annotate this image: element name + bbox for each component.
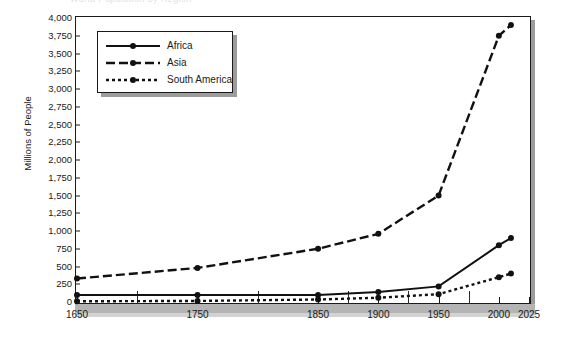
data-point-marker [74,276,80,282]
data-point-marker [195,298,201,304]
data-point-marker [508,235,514,241]
legend-swatch-icon [105,57,161,69]
data-point-marker [436,291,442,297]
chart-legend: AfricaAsiaSouth America [97,31,233,93]
legend-swatch-icon [105,40,161,52]
data-point-marker [508,22,514,28]
data-point-marker [195,265,201,271]
data-point-marker [375,295,381,301]
legend-label: South America [167,75,232,85]
population-line-chart: World Population by Region Millions of P… [0,0,585,337]
data-point-marker [195,292,201,298]
data-point-marker [496,242,502,248]
data-point-marker [315,246,321,252]
legend-item-asia[interactable]: Asia [105,54,225,71]
legend-label: Africa [167,41,193,51]
legend-label: Asia [167,58,186,68]
series-layer [0,0,585,337]
data-point-marker [74,292,80,298]
series-africa [74,235,514,298]
data-point-marker [508,271,514,277]
series-line [77,274,511,302]
legend-swatch-icon [105,74,161,86]
legend-item-south-america[interactable]: South America [105,71,225,88]
data-point-marker [436,283,442,289]
series-south-america [74,271,514,305]
data-point-marker [496,274,502,280]
data-point-marker [375,289,381,295]
data-point-marker [375,231,381,237]
data-point-marker [436,193,442,199]
data-point-marker [315,297,321,303]
series-line [77,238,511,295]
data-point-marker [496,33,502,39]
legend-item-africa[interactable]: Africa [105,37,225,54]
data-point-marker [74,298,80,304]
